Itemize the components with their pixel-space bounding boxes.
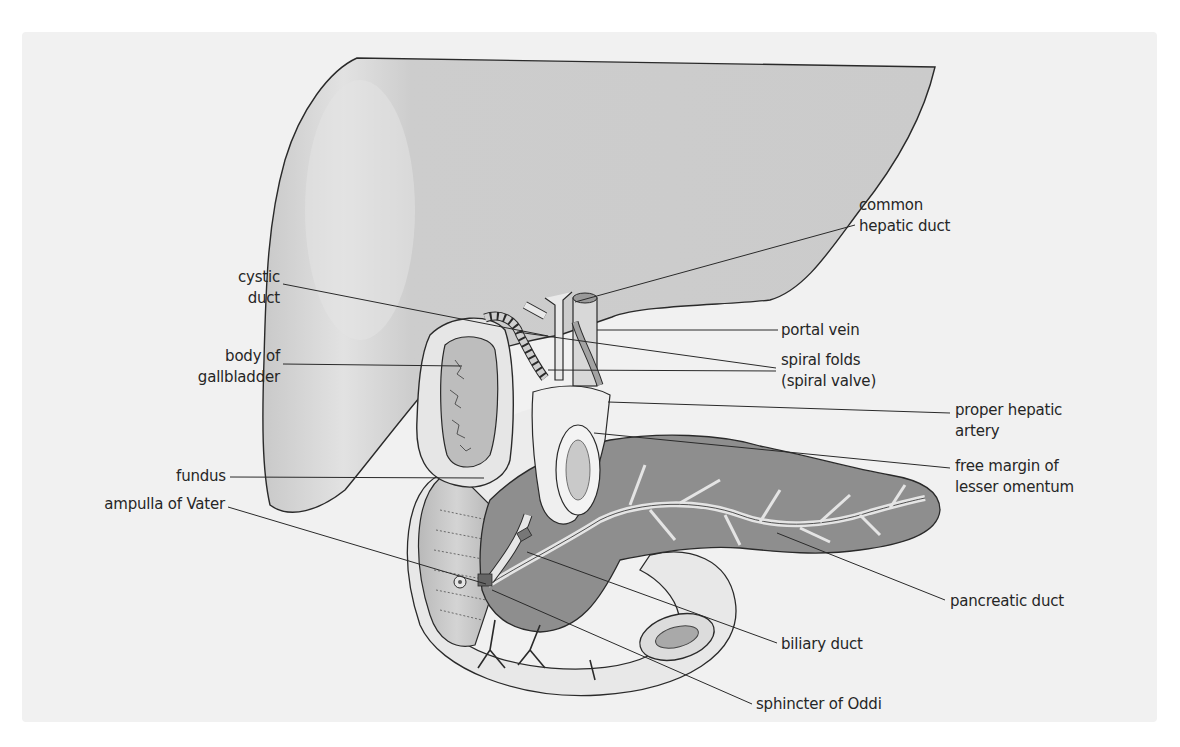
label-free-margin-lesser-omentum: free margin of lesser omentum: [955, 456, 1074, 498]
label-portal-vein: portal vein: [781, 320, 859, 341]
label-ampulla-of-vater: ampulla of Vater: [60, 494, 225, 515]
label-pancreatic-duct: pancreatic duct: [950, 591, 1064, 612]
label-cystic-duct: cystic duct: [205, 267, 280, 309]
label-common-hepatic-duct: common hepatic duct: [859, 195, 950, 237]
label-fundus: fundus: [150, 466, 226, 487]
gallbladder: [417, 318, 514, 487]
label-spiral-folds: spiral folds (spiral valve): [781, 350, 876, 392]
label-biliary-duct: biliary duct: [781, 634, 863, 655]
label-sphincter-of-oddi: sphincter of Oddi: [756, 694, 882, 715]
label-proper-hepatic-artery: proper hepatic artery: [955, 400, 1062, 442]
label-body-of-gallbladder: body of gallbladder: [160, 346, 280, 388]
